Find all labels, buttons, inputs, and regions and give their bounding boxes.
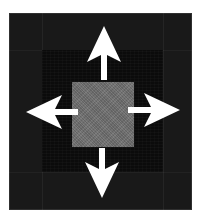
expansion-diagram — [0, 0, 204, 221]
frame-seam-right — [163, 13, 164, 210]
center-gray-square — [72, 82, 134, 147]
frame-seam-bottom — [9, 172, 192, 173]
